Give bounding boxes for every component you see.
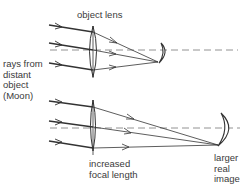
top-refracted-ray-3 [93, 62, 158, 70]
bottom-refracted-ray-3 [93, 145, 218, 148]
top-refracted-ray-2 [93, 50, 158, 62]
rays-source-line-3: object [3, 80, 43, 91]
larger-real-image-label: larger real image [214, 153, 240, 185]
bottom-arrow-out-2 [124, 128, 131, 134]
rays-source-line-1: rays from [3, 59, 43, 70]
rays-source-line-4: (Moon) [3, 91, 43, 102]
image-label-line-1: larger [214, 153, 240, 164]
bottom-incoming-ray-1 [49, 101, 93, 107]
bottom-incoming-ray-2 [49, 121, 93, 127]
focal-length-line-2: focal length [89, 170, 138, 181]
top-diagram [49, 23, 238, 78]
bottom-diagram [49, 99, 240, 155]
rays-source-label: rays from distant object (Moon) [3, 59, 43, 101]
bottom-refracted-ray-1 [93, 107, 218, 145]
top-refracted-ray-1 [93, 32, 158, 62]
bottom-larger-real-image [218, 113, 229, 146]
focal-length-line-1: increased [89, 159, 138, 170]
top-small-real-image [159, 43, 165, 63]
bottom-refracted-ray-2 [93, 127, 218, 145]
increased-focal-length-label: increased focal length [89, 159, 138, 180]
object-lens-label: object lens [77, 10, 122, 21]
image-label-line-3: image [214, 174, 240, 185]
